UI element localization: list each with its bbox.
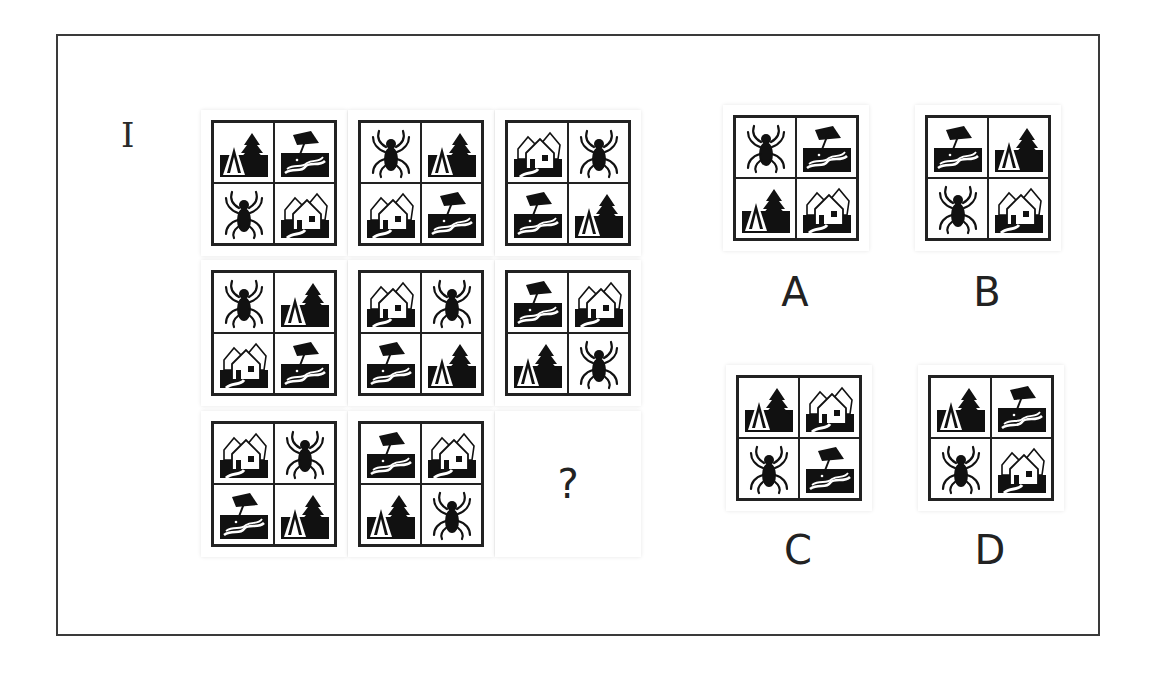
grid-cell	[274, 423, 335, 484]
grid-cell	[568, 122, 629, 183]
option-a-tile[interactable]	[723, 105, 869, 251]
grid-cell	[213, 333, 274, 394]
option-b-label[interactable]: B	[957, 272, 1017, 312]
grid-cell	[507, 272, 568, 333]
beach-umbrella-icon	[801, 122, 853, 174]
spider-icon	[279, 428, 331, 480]
camp-tent-tree-icon	[935, 382, 987, 434]
grid-cell	[568, 333, 629, 394]
grid-cell	[360, 272, 421, 333]
grid-cell	[738, 377, 799, 438]
village-houses-icon	[573, 277, 625, 329]
matrix-tile-r2c3	[495, 260, 641, 406]
grid-cell	[360, 333, 421, 394]
beach-umbrella-icon	[426, 188, 478, 240]
matrix-tile-r3c2	[348, 411, 494, 557]
grid-cell	[927, 117, 988, 178]
spider-icon	[426, 489, 478, 541]
grid-cell	[927, 178, 988, 239]
village-houses-icon	[512, 127, 564, 179]
grid-cell	[274, 333, 335, 394]
option-d-label[interactable]: D	[960, 530, 1020, 570]
camp-tent-tree-icon	[218, 127, 270, 179]
village-houses-icon	[993, 183, 1045, 235]
grid-cell	[274, 183, 335, 244]
puzzle-label: I	[121, 118, 134, 152]
spider-icon	[573, 127, 625, 179]
option-c-tile[interactable]	[726, 365, 872, 511]
icon-grid	[211, 270, 337, 396]
grid-cell	[274, 484, 335, 545]
icon-grid	[505, 270, 631, 396]
matrix-tile-r1c3	[495, 110, 641, 256]
village-houses-icon	[365, 188, 417, 240]
beach-umbrella-icon	[365, 428, 417, 480]
icon-grid	[211, 421, 337, 547]
grid-cell	[213, 423, 274, 484]
matrix-tile-r2c2	[348, 260, 494, 406]
grid-cell	[421, 333, 482, 394]
option-a-label[interactable]: A	[765, 272, 825, 312]
camp-tent-tree-icon	[743, 382, 795, 434]
grid-cell	[930, 377, 991, 438]
matrix-tile-missing: ?	[495, 411, 641, 557]
icon-grid	[928, 375, 1054, 501]
grid-cell	[988, 117, 1049, 178]
grid-cell	[507, 122, 568, 183]
grid-cell	[360, 423, 421, 484]
grid-cell	[421, 183, 482, 244]
spider-icon	[932, 183, 984, 235]
camp-tent-tree-icon	[512, 338, 564, 390]
grid-cell	[360, 122, 421, 183]
grid-cell	[930, 438, 991, 499]
beach-umbrella-icon	[218, 489, 270, 541]
beach-umbrella-icon	[512, 277, 564, 329]
grid-cell	[735, 117, 796, 178]
grid-cell	[991, 438, 1052, 499]
village-houses-icon	[426, 428, 478, 480]
grid-cell	[796, 117, 857, 178]
beach-umbrella-icon	[932, 122, 984, 174]
grid-cell	[213, 122, 274, 183]
option-b-tile[interactable]	[915, 105, 1061, 251]
beach-umbrella-icon	[279, 127, 331, 179]
icon-grid	[505, 120, 631, 246]
spider-icon	[740, 122, 792, 174]
option-d-tile[interactable]	[918, 365, 1064, 511]
village-houses-icon	[996, 443, 1048, 495]
camp-tent-tree-icon	[279, 489, 331, 541]
spider-icon	[218, 277, 270, 329]
grid-cell	[421, 484, 482, 545]
icon-grid	[925, 115, 1051, 241]
camp-tent-tree-icon	[426, 127, 478, 179]
camp-tent-tree-icon	[279, 277, 331, 329]
grid-cell	[568, 272, 629, 333]
spider-icon	[573, 338, 625, 390]
option-c-label[interactable]: C	[768, 530, 828, 570]
beach-umbrella-icon	[804, 443, 856, 495]
grid-cell	[507, 333, 568, 394]
grid-cell	[568, 183, 629, 244]
icon-grid	[358, 120, 484, 246]
missing-answer-question-mark: ?	[495, 411, 641, 557]
grid-cell	[799, 377, 860, 438]
grid-cell	[360, 183, 421, 244]
grid-cell	[507, 183, 568, 244]
camp-tent-tree-icon	[426, 338, 478, 390]
spider-icon	[218, 188, 270, 240]
village-houses-icon	[365, 277, 417, 329]
grid-cell	[738, 438, 799, 499]
spider-icon	[743, 443, 795, 495]
village-houses-icon	[804, 382, 856, 434]
grid-cell	[213, 272, 274, 333]
beach-umbrella-icon	[365, 338, 417, 390]
camp-tent-tree-icon	[365, 489, 417, 541]
grid-cell	[360, 484, 421, 545]
grid-cell	[735, 178, 796, 239]
spider-icon	[426, 277, 478, 329]
grid-cell	[421, 272, 482, 333]
beach-umbrella-icon	[279, 338, 331, 390]
matrix-tile-r1c2	[348, 110, 494, 256]
spider-icon	[365, 127, 417, 179]
beach-umbrella-icon	[512, 188, 564, 240]
